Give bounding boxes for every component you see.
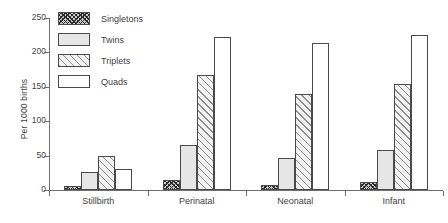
chart-legend: Singletons Twins Triplets Quads bbox=[58, 8, 143, 92]
legend-label-twins: Twins bbox=[101, 35, 124, 45]
legend-item-twins: Twins bbox=[58, 29, 143, 50]
bar-neonatal-triplets bbox=[295, 94, 312, 190]
bar-chart: Per 1000 births 050100150200250 Stillbir… bbox=[0, 0, 448, 223]
bar-neonatal-quads bbox=[312, 43, 329, 190]
x-axis-label-perinatal: Perinatal bbox=[148, 196, 247, 206]
legend-swatch-singletons bbox=[58, 12, 90, 25]
bar-infant-triplets bbox=[394, 84, 411, 190]
bar-perinatal-twins bbox=[180, 145, 197, 190]
bar-infant-singletons bbox=[360, 182, 377, 190]
bar-neonatal-twins bbox=[278, 158, 295, 190]
legend-label-triplets: Triplets bbox=[101, 56, 130, 66]
bar-infant-quads bbox=[411, 35, 428, 190]
bar-infant-twins bbox=[377, 150, 394, 190]
legend-label-singletons: Singletons bbox=[101, 14, 143, 24]
x-axis-label-neonatal: Neonatal bbox=[246, 196, 345, 206]
legend-item-quads: Quads bbox=[58, 71, 143, 92]
legend-swatch-quads bbox=[58, 75, 90, 88]
bar-stillbirth-twins bbox=[81, 172, 98, 190]
legend-swatch-triplets bbox=[58, 54, 90, 67]
legend-item-triplets: Triplets bbox=[58, 50, 143, 71]
x-axis-label-infant: Infant bbox=[345, 196, 444, 206]
bar-stillbirth-triplets bbox=[98, 156, 115, 190]
bar-perinatal-singletons bbox=[163, 180, 180, 190]
legend-swatch-twins bbox=[58, 33, 90, 46]
x-axis-label-stillbirth: Stillbirth bbox=[49, 196, 148, 206]
legend-item-singletons: Singletons bbox=[58, 8, 143, 29]
bar-perinatal-quads bbox=[214, 37, 231, 190]
x-tick-mark-4 bbox=[443, 191, 444, 196]
bar-stillbirth-quads bbox=[115, 169, 132, 190]
legend-label-quads: Quads bbox=[101, 77, 128, 87]
bar-perinatal-triplets bbox=[197, 75, 214, 190]
